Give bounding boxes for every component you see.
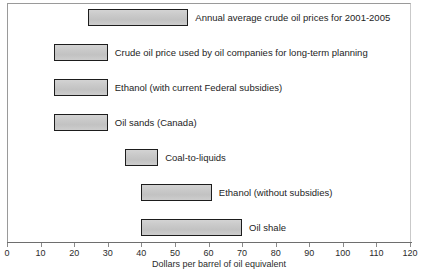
x-tick-mark [108,243,109,247]
x-tick-label: 60 [203,248,213,259]
bar-2[interactable] [54,79,108,96]
bar-1[interactable] [54,44,108,61]
bar-label-3: Oil sands (Canada) [115,114,197,131]
x-tick-label: 40 [136,248,146,259]
x-tick-mark [276,243,277,247]
bar-label-2: Ethanol (with current Federal subsidies) [115,79,282,96]
x-tick-label: 90 [304,248,314,259]
bar-label-0: Annual average crude oil prices for 2001… [195,9,390,26]
x-tick-mark [175,243,176,247]
bar-6[interactable] [141,219,242,236]
x-tick-label: 10 [36,248,46,259]
x-tick-label: 20 [69,248,79,259]
x-tick-label: 80 [271,248,281,259]
bar-3[interactable] [54,114,108,131]
x-axis-title: Dollars per barrel of oil equivalent [0,259,438,269]
x-tick-mark [209,243,210,247]
x-tick-mark [309,243,310,247]
x-tick-mark [7,243,8,247]
bar-label-6: Oil shale [249,219,286,236]
bar-0[interactable] [88,9,189,26]
x-tick-mark [343,243,344,247]
bar-4[interactable] [125,149,159,166]
x-tick-label: 120 [402,248,417,259]
x-tick-label: 50 [170,248,180,259]
bar-5[interactable] [141,184,212,201]
x-tick-label: 110 [369,248,383,259]
x-tick-mark [376,243,377,247]
x-axis-line [7,242,412,243]
x-tick-mark [242,243,243,247]
x-tick-label: 0 [4,248,9,259]
x-tick-label: 30 [103,248,113,259]
x-tick-label: 100 [335,248,350,259]
bar-label-1: Crude oil price used by oil companies fo… [115,44,368,61]
x-tick-label: 70 [237,248,247,259]
bar-label-4: Coal-to-liquids [165,149,226,166]
x-tick-mark [410,243,411,247]
bar-label-5: Ethanol (without subsidies) [219,184,333,201]
chart-container: 0102030405060708090100110120 Annual aver… [0,0,438,271]
x-tick-mark [74,243,75,247]
x-tick-mark [41,243,42,247]
x-tick-mark [141,243,142,247]
